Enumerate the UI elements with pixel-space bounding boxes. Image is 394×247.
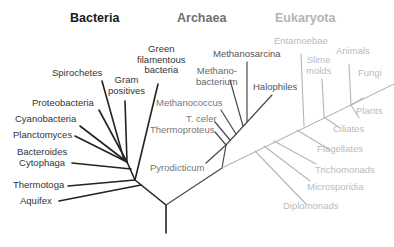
branch-methanococcus <box>221 110 236 134</box>
branch-microsporidia <box>264 146 310 181</box>
label-planctomyces: Planctomyces <box>13 130 72 141</box>
branch-thermotoga <box>68 180 135 186</box>
archaea-backbone <box>226 95 272 145</box>
label-fungi: Fungi <box>358 68 382 79</box>
label-ciliates: Ciliates <box>333 124 364 135</box>
label-thermoproteus: Thermoproteus <box>150 125 214 136</box>
label-animals: Animals <box>336 46 370 57</box>
eukaryota-backbone <box>222 84 394 168</box>
branch-fungi <box>351 98 363 105</box>
label-gram-positives: Gram positives <box>108 75 145 96</box>
label-thermotoga: Thermotoga <box>13 180 64 191</box>
label-green-filamentous: Green filamentous bacteria <box>137 44 186 76</box>
branch-gram-positives <box>125 101 127 162</box>
label-line: Methano- <box>196 66 238 77</box>
branch-animals <box>349 64 351 105</box>
label-line: bacteria <box>137 65 186 76</box>
label-spirochetes: Spirochetes <box>52 68 102 79</box>
label-microsporidia: Microsporidia <box>307 182 364 193</box>
label-line: bacterium <box>196 77 238 88</box>
label-methanosarcina: Methanosarcina <box>213 49 281 60</box>
label-proteobacteria: Proteobacteria <box>32 98 94 109</box>
label-trichomonads: Trichomonads <box>315 165 375 176</box>
branch-trichomonads <box>274 141 316 164</box>
label-flagellates: Flagellates <box>317 144 363 155</box>
label-line: Bacteroides <box>17 147 67 158</box>
bacteria-stem <box>135 180 166 205</box>
label-line: molds <box>306 66 331 77</box>
label-line: Slime <box>306 55 331 66</box>
label-pyrodicticum: Pyrodicticum <box>150 163 204 174</box>
branch-aquifex <box>59 185 141 201</box>
label-diplomonads: Diplomonads <box>283 201 338 212</box>
label-entamoebae: Entamoebae <box>274 36 328 47</box>
label-t-celer: T. celer <box>186 114 217 125</box>
label-slime-molds: Slime molds <box>306 55 331 76</box>
header-archaea: Archaea <box>177 11 226 25</box>
label-line: Gram <box>108 75 145 86</box>
label-aquifex: Aquifex <box>20 196 52 207</box>
label-line: positives <box>108 86 145 97</box>
label-line: Cytophaga <box>17 158 67 169</box>
label-plants: Plants <box>356 106 382 117</box>
branch-t-celer <box>215 122 230 140</box>
label-halophiles: Halophiles <box>253 82 297 93</box>
label-cyanobacteria: Cyanobacteria <box>15 114 76 125</box>
label-line: Green <box>137 44 186 55</box>
header-eukaryota: Eukaryota <box>275 11 335 25</box>
header-bacteria: Bacteria <box>70 11 119 25</box>
label-bacteroides-cytophaga: Bacteroides Cytophaga <box>17 147 67 168</box>
label-methanococcus: Methanococcus <box>156 98 223 109</box>
label-methanobacterium: Methano- bacterium <box>196 66 238 87</box>
branch-slime-molds <box>322 79 324 117</box>
branch-planctomyces <box>127 162 135 180</box>
branch-entamoebae <box>301 54 304 126</box>
archaea-eukaryota-stem <box>166 168 222 205</box>
branch-bacteroides <box>72 163 131 169</box>
